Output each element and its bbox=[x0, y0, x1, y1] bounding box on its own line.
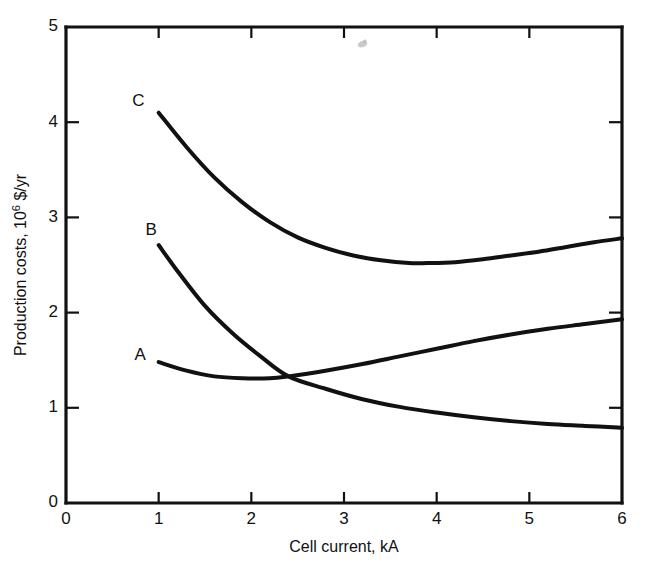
curve-C bbox=[159, 113, 622, 264]
curve-B bbox=[159, 245, 622, 428]
y-tick-label: 5 bbox=[49, 16, 58, 35]
curve-label-C: C bbox=[132, 91, 144, 110]
ink-smudge bbox=[357, 39, 369, 49]
x-axis-title: Cell current, kA bbox=[289, 538, 399, 555]
image-artifacts bbox=[357, 39, 369, 49]
curve-labels: ABC bbox=[132, 91, 157, 364]
curve-label-B: B bbox=[146, 220, 157, 239]
x-tick-label: 0 bbox=[61, 509, 70, 528]
y-axis-title: Production costs, 106 $/yr bbox=[10, 173, 29, 356]
curve-label-A: A bbox=[134, 345, 146, 364]
y-axis-title-base: Production costs, 10 bbox=[12, 211, 29, 356]
axis-frame bbox=[66, 27, 622, 503]
data-curves bbox=[159, 113, 622, 428]
x-tick-label: 3 bbox=[339, 509, 348, 528]
y-tick-label: 1 bbox=[49, 397, 58, 416]
x-tick-label: 4 bbox=[432, 509, 441, 528]
x-tick-label: 2 bbox=[247, 509, 256, 528]
line-chart: 0123456012345 ABC Cell current, kA Produ… bbox=[0, 0, 649, 566]
y-tick-label: 0 bbox=[49, 492, 58, 511]
svg-text:Production costs, 106 $/yr: Production costs, 106 $/yr bbox=[10, 173, 29, 356]
y-tick-label: 2 bbox=[49, 302, 58, 321]
x-tick-label: 5 bbox=[525, 509, 534, 528]
x-tick-label: 1 bbox=[154, 509, 163, 528]
x-tick-label: 6 bbox=[617, 509, 626, 528]
y-tick-label: 4 bbox=[49, 112, 58, 131]
y-axis-title-tail: $/yr bbox=[12, 173, 29, 205]
chart-figure: 0123456012345 ABC Cell current, kA Produ… bbox=[0, 0, 649, 566]
y-tick-label: 3 bbox=[49, 207, 58, 226]
axis-ticks bbox=[66, 27, 622, 503]
